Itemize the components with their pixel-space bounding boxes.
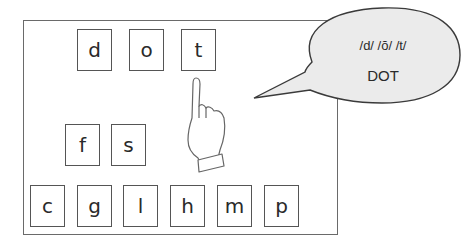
word-text: DOT	[313, 67, 453, 84]
speech-bubble	[254, 8, 460, 103]
phoneme-text: /d/ /ŏ/ /t/	[313, 38, 453, 53]
pointing-hand-icon	[188, 78, 225, 172]
